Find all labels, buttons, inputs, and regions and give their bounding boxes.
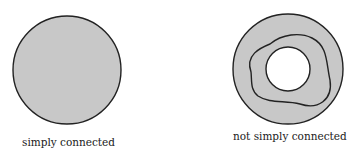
label-simply-connected: simply connected <box>22 136 115 148</box>
hole <box>266 47 310 91</box>
label-not-simply-connected: not simply connected <box>233 130 347 142</box>
not-simply-connected-region <box>233 14 343 124</box>
simply-connected-region <box>13 16 121 124</box>
